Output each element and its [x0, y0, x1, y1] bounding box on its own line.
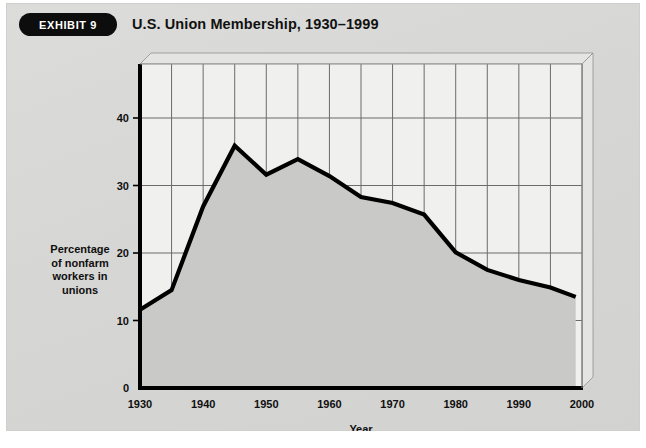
y-tick-label: 40	[117, 112, 129, 124]
y-axis-title: Percentageof nonfarmworkers inunions	[34, 243, 126, 297]
union-membership-line-chart: 19301940195019601970198019902000 0102030…	[6, 45, 640, 431]
x-tick-label: 1960	[317, 398, 341, 410]
y-tick-label: 0	[123, 382, 129, 394]
y-axis-title-line: of nonfarm	[34, 257, 126, 271]
page-title: U.S. Union Membership, 1930–1999	[132, 16, 379, 32]
y-axis-title-line: Percentage	[34, 243, 126, 257]
y-axis-title-line: workers in	[34, 270, 126, 284]
chart-plot-region: 19301940195019601970198019902000 0102030…	[6, 45, 640, 431]
x-tick-label: 1940	[191, 398, 215, 410]
x-tick-label: 1970	[380, 398, 404, 410]
y-tick-label: 30	[117, 180, 129, 192]
y-tick-label: 10	[117, 315, 129, 327]
x-axis-title: Year	[349, 423, 373, 431]
x-tick-label: 1990	[507, 398, 531, 410]
x-tick-label: 1930	[128, 398, 152, 410]
y-axis-title-line: unions	[34, 284, 126, 298]
x-tick-label: 1980	[443, 398, 467, 410]
exhibit-badge: EXHIBIT 9	[19, 13, 117, 36]
x-axis-tick-labels: 19301940195019601970198019902000	[128, 398, 594, 410]
exhibit-header: EXHIBIT 9 U.S. Union Membership, 1930–19…	[6, 3, 640, 45]
x-tick-label: 1950	[254, 398, 278, 410]
x-tick-label: 2000	[570, 398, 594, 410]
exhibit-card: EXHIBIT 9 U.S. Union Membership, 1930–19…	[6, 3, 640, 431]
